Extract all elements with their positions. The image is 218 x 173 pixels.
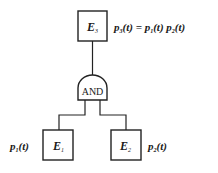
top-event-equation: p3(t) = p1(t) p2(t) <box>113 21 185 34</box>
and-gate-label: AND <box>82 86 104 97</box>
fault-tree-diagram: E3 p3(t) = p1(t) p2(t) AND E1 p1(t) E2 p… <box>0 0 218 173</box>
event-e2-probability: p2(t) <box>147 140 167 153</box>
connector-gate-e1 <box>59 100 85 130</box>
event-e1-probability: p1(t) <box>9 140 29 153</box>
connector-gate-e2 <box>100 100 126 130</box>
